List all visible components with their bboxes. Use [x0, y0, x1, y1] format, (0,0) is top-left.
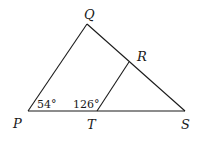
- label-q: Q: [84, 7, 95, 22]
- segment-tr: [97, 62, 129, 111]
- label-s: S: [181, 117, 190, 132]
- label-p: P: [12, 116, 22, 131]
- label-t: T: [87, 117, 97, 132]
- label-r: R: [136, 49, 147, 64]
- triangle-diagram: Q R P T S 54° 126°: [0, 0, 204, 143]
- angle-p-label: 54°: [37, 98, 57, 111]
- segment-qs: [87, 24, 185, 111]
- angle-t-label: 126°: [73, 98, 100, 111]
